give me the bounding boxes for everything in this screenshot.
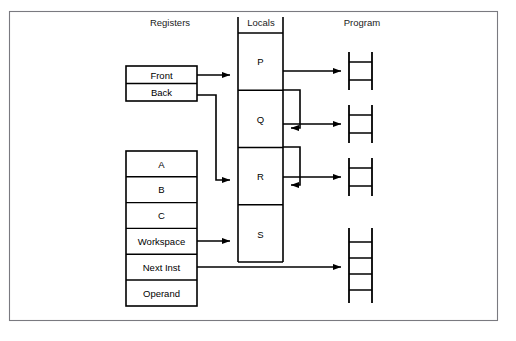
- program-ladder-r: [349, 158, 372, 196]
- header-program: Program: [344, 17, 381, 28]
- register-cell-operand: Operand: [143, 288, 180, 299]
- connector-q-loop-to-r: [283, 147, 300, 185]
- register-cell-next-inst: Next Inst: [143, 262, 181, 273]
- outer-frame: [10, 12, 498, 321]
- register-cell-workspace: Workspace: [138, 236, 185, 247]
- locals-cell-r: R: [257, 171, 264, 182]
- program-ladder-s: [349, 228, 372, 303]
- header-locals: Locals: [247, 17, 275, 28]
- program-ladder-p: [349, 52, 372, 90]
- register-cell-a: A: [158, 159, 165, 170]
- locals-cell-q: Q: [257, 114, 264, 125]
- program-ladder-q: [349, 105, 372, 143]
- connector-back-to-r: [197, 95, 230, 180]
- locals-column-box: P Q R S: [238, 17, 283, 262]
- register-cell-b: B: [158, 184, 164, 195]
- diagram-canvas: Registers Locals Program Front Back A B …: [0, 0, 516, 341]
- register-cell-back: Back: [151, 87, 172, 98]
- transputer-model-diagram: Registers Locals Program Front Back A B …: [0, 0, 516, 341]
- queue-registers-box: Front Back: [126, 66, 197, 101]
- stack-registers-box: A B C Workspace Next Inst Operand: [126, 151, 197, 306]
- locals-cell-s: S: [257, 229, 263, 240]
- header-registers: Registers: [150, 17, 190, 28]
- register-cell-c: C: [158, 210, 165, 221]
- locals-cell-p: P: [257, 56, 263, 67]
- connector-p-loop-to-q: [283, 90, 300, 128]
- register-cell-front: Front: [150, 70, 173, 81]
